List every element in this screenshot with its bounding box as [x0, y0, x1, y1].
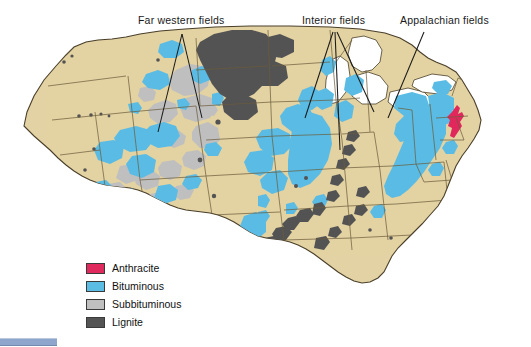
- legend-item-subbituminous: Subbituminous: [86, 297, 181, 311]
- map-legend: Anthracite Bituminous Subbituminous Lign…: [86, 261, 181, 329]
- coal-fields-map-screen: Far western fields Interior fields Appal…: [0, 0, 531, 347]
- legend-swatch-anthracite: [86, 263, 105, 274]
- legend-label-lignite: Lignite: [112, 317, 143, 328]
- legend-swatch-lignite: [86, 317, 105, 328]
- legend-label-bituminous: Bituminous: [112, 281, 164, 292]
- legend-swatch-subbituminous: [86, 299, 105, 310]
- legend-label-subbituminous: Subbituminous: [112, 299, 181, 310]
- us-coal-map: [0, 0, 531, 347]
- legend-item-lignite: Lignite: [86, 315, 181, 329]
- legend-swatch-bituminous: [86, 281, 105, 292]
- bottom-progress-bar[interactable]: [0, 338, 57, 346]
- legend-item-anthracite: Anthracite: [86, 261, 181, 275]
- annotation-label-appalachian-fields: Appalachian fields: [400, 14, 489, 26]
- legend-item-bituminous: Bituminous: [86, 279, 181, 293]
- annotation-label-interior-fields: Interior fields: [302, 14, 365, 26]
- legend-label-anthracite: Anthracite: [112, 263, 159, 274]
- annotation-label-far-western-fields: Far western fields: [138, 14, 224, 26]
